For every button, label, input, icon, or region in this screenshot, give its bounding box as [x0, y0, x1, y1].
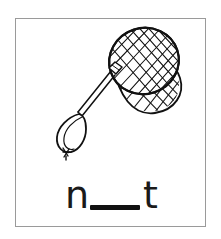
- net-illustration: [16, 19, 207, 169]
- word-prompt: n t: [16, 159, 207, 225]
- mesh-hoop: [101, 19, 206, 103]
- card-frame: n t: [15, 18, 206, 227]
- prompt-blank-slot[interactable]: [90, 170, 140, 208]
- prompt-first-letter: n: [65, 176, 89, 214]
- blank-underline: [90, 205, 140, 210]
- handle-shaft: [78, 71, 115, 116]
- prompt-last-letter: t: [143, 176, 158, 214]
- net-group: [57, 19, 207, 160]
- worksheet-card: n t: [0, 0, 221, 239]
- word-row: n t: [65, 170, 158, 214]
- handle-loop: [57, 114, 86, 152]
